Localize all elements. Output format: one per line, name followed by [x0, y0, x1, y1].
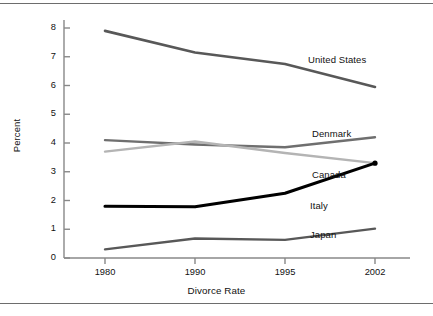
x-tick-label: 1990 [172, 267, 218, 277]
y-tick-label: 5 [34, 108, 56, 118]
series-label-united-states: United States [308, 54, 366, 65]
y-tick-label: 6 [34, 80, 56, 90]
x-tick-label: 2002 [352, 267, 398, 277]
y-tick-label: 0 [34, 252, 56, 262]
chart-figure: Percent Divorce Rate 012345678 198019901… [0, 0, 433, 316]
series-label-denmark: Denmark [312, 128, 351, 139]
x-tick-label: 1995 [262, 267, 308, 277]
y-tick-label: 8 [34, 22, 56, 32]
series-label-japan: Japan [310, 229, 336, 240]
y-tick-label: 3 [34, 166, 56, 176]
x-axis-title: Divorce Rate [0, 285, 433, 296]
x-tick-label: 1980 [82, 267, 128, 277]
series-endpoint-marker-italy [372, 161, 377, 166]
y-tick-label: 7 [34, 51, 56, 61]
y-tick-label: 1 [34, 223, 56, 233]
series-label-italy: Italy [310, 200, 328, 211]
y-tick-label: 4 [34, 137, 56, 147]
series-label-canada: Canada [312, 169, 346, 180]
y-axis-title: Percent [11, 101, 22, 171]
y-tick-label: 2 [34, 195, 56, 205]
